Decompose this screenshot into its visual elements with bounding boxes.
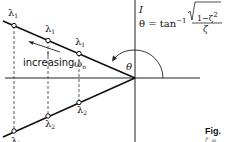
figure-caption: Fig. bbox=[205, 127, 221, 136]
lambda1-label-b: λ1 bbox=[45, 24, 55, 35]
lambda1-label-c: λ1 bbox=[75, 37, 85, 48]
lambda2-label-a: λ2 bbox=[11, 136, 21, 142]
theta-formula: θ = tan−1 bbox=[139, 18, 187, 29]
upper-point-2 bbox=[46, 38, 50, 42]
theta-angle-label: θ bbox=[126, 62, 132, 72]
imag-axis-label: I bbox=[139, 5, 143, 15]
figure-caption-sub: ζ = … bbox=[205, 138, 226, 142]
upper-point-1 bbox=[12, 23, 16, 27]
lambda2-label-b: λ2 bbox=[45, 119, 55, 130]
lambda2-label-c: λ2 bbox=[77, 105, 87, 116]
root-locus-diagram bbox=[0, 0, 227, 142]
lambda1-label-a: λ1 bbox=[8, 8, 18, 19]
increasing-label: increasing bbox=[23, 58, 74, 68]
theta-arc bbox=[114, 50, 163, 78]
increasing-arrow-head bbox=[28, 41, 34, 45]
lower-locus-line bbox=[3, 78, 135, 137]
formula-denominator: ζ bbox=[203, 25, 208, 34]
upper-locus-line bbox=[3, 21, 135, 78]
omega-n-label: ωn bbox=[74, 59, 86, 70]
upper-point-3 bbox=[77, 51, 81, 55]
lower-point-1 bbox=[12, 129, 16, 133]
formula-numerator: 1−ζ2 bbox=[197, 12, 218, 23]
